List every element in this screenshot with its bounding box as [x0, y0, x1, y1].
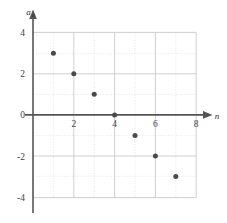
x-tick-label: 4 [112, 119, 117, 129]
data-point [71, 71, 76, 76]
x-axis-title: n [215, 111, 220, 121]
data-point [133, 133, 138, 138]
plot-background [0, 0, 227, 223]
data-point [173, 174, 178, 179]
data-point [51, 51, 56, 56]
y-tick-label: 4 [20, 28, 25, 38]
y-tick-label: -4 [17, 193, 25, 203]
x-tick-label: 6 [153, 119, 158, 129]
y-axis-title-subscript: n [32, 12, 35, 18]
scatter-plot-figure: n a n 2 4 6 8 4 2 0 -2 -4 [0, 0, 227, 223]
data-point [92, 92, 97, 97]
x-tick-label: 2 [71, 119, 76, 129]
y-axis-title-base: a [26, 7, 31, 17]
data-point [112, 112, 117, 117]
y-tick-label: 0 [20, 110, 25, 120]
data-point [153, 154, 158, 159]
x-tick-label: 8 [194, 119, 199, 129]
y-tick-label: 2 [20, 69, 25, 79]
plot-canvas: n a n 2 4 6 8 4 2 0 -2 -4 [0, 0, 227, 223]
y-tick-label: -2 [17, 152, 25, 162]
